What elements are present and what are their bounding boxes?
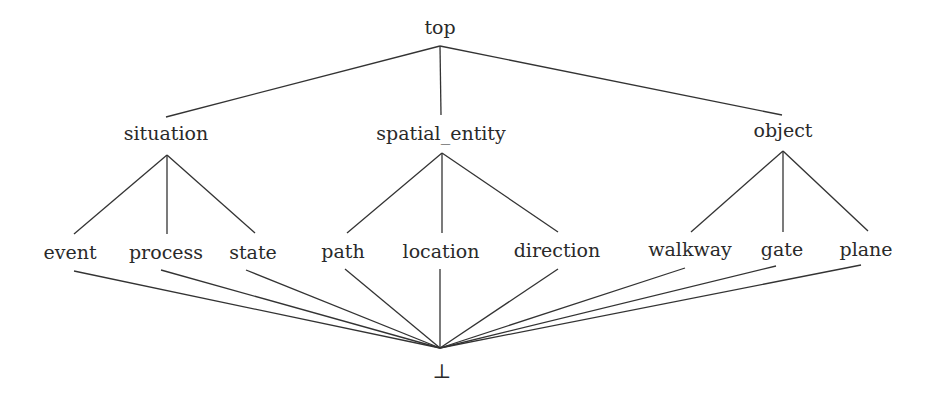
edge-spatial_entity-path: [347, 153, 442, 233]
edge-gate-bottom: [440, 266, 776, 348]
node-path: path: [321, 242, 364, 261]
node-state: state: [229, 243, 277, 262]
node-walkway: walkway: [648, 240, 732, 259]
edge-top-situation: [166, 46, 440, 117]
node-plane: plane: [839, 240, 892, 259]
node-situation: situation: [124, 124, 208, 143]
node-location: location: [403, 242, 480, 261]
node-object: object: [753, 121, 812, 140]
node-spatial-entity: spatial_entity: [376, 124, 505, 143]
node-gate: gate: [761, 240, 803, 259]
edge-process-bottom: [161, 270, 440, 348]
node-direction: direction: [514, 241, 601, 260]
edge-top-spatial_entity: [440, 46, 441, 115]
node-top: top: [424, 18, 455, 37]
edge-state-bottom: [246, 270, 440, 348]
edge-situation-event: [74, 155, 167, 234]
edge-situation-state: [167, 155, 255, 233]
edge-event-bottom: [74, 271, 440, 348]
edge-path-bottom: [345, 269, 440, 348]
edge-walkway-bottom: [440, 268, 685, 348]
type-lattice-diagram: top situation spatial_entity object even…: [0, 0, 936, 398]
lattice-edges: [0, 0, 936, 398]
edge-top-object: [440, 46, 782, 115]
node-process: process: [129, 243, 203, 262]
node-bottom: ⊥: [433, 361, 452, 381]
edge-object-plane: [783, 151, 868, 231]
edge-spatial_entity-direction: [442, 153, 558, 232]
node-event: event: [43, 243, 96, 262]
edge-object-walkway: [691, 151, 783, 232]
